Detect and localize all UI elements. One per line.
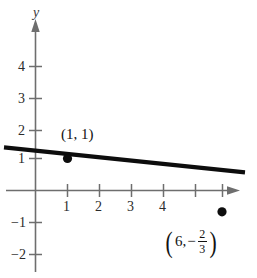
fraction-denominator: 3 (199, 242, 205, 255)
graph-figure: y 4 3 2 1 −1 −2 1 2 3 4 (1, 1) ( 6, − 2 … (0, 0, 257, 278)
x-tick-label-1: 1 (63, 200, 70, 214)
point-label-6-negative-two-thirds: ( 6, − 2 3 ) (164, 228, 218, 255)
x-tick-label-2: 2 (95, 200, 102, 214)
x-axis-arrow-icon (227, 186, 240, 194)
fraction-two-thirds: 2 3 (198, 228, 207, 255)
plotted-line (4, 147, 245, 172)
point-x-value: 6, (175, 234, 186, 249)
fraction-numerator: 2 (199, 228, 205, 241)
y-tick-label-4: 4 (18, 60, 25, 74)
y-axis-label: y (33, 6, 39, 20)
coordinate-plane-svg (0, 0, 257, 278)
paren-close: ) (209, 230, 216, 253)
y-tick-label-2: 2 (18, 124, 25, 138)
y-tick-label-1: 1 (18, 152, 25, 166)
minus-sign: − (187, 234, 195, 249)
y-tick-label-negative-2: −2 (11, 248, 26, 262)
y-tick-label-3: 3 (18, 92, 25, 106)
point-marker-1-1 (63, 154, 72, 163)
paren-open: ( (165, 230, 172, 253)
point-marker-6-negative-two-thirds (217, 207, 226, 216)
y-tick-label-negative-1: −1 (11, 216, 26, 230)
y-axis-arrow-icon (31, 19, 39, 32)
x-tick-label-3: 3 (127, 200, 134, 214)
fraction-body: 6, − 2 3 (174, 228, 208, 255)
point-label-1-1: (1, 1) (61, 127, 94, 142)
x-tick-label-4: 4 (159, 200, 166, 214)
